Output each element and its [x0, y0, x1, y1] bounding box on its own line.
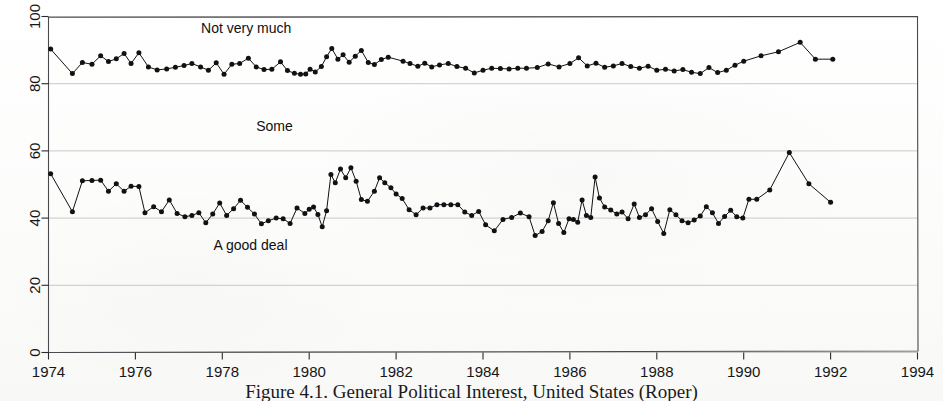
data-point: [266, 218, 271, 223]
data-point: [518, 211, 523, 216]
data-point: [437, 62, 442, 67]
x-tick-label: 1978: [206, 363, 239, 380]
political-interest-line-chart: 1974197619781980198219841986198819901992…: [0, 0, 943, 401]
data-point: [661, 231, 666, 236]
data-point: [524, 66, 529, 71]
data-point: [167, 197, 172, 202]
data-point: [483, 222, 488, 227]
data-point: [246, 56, 251, 61]
data-point: [507, 66, 512, 71]
data-point: [274, 216, 279, 221]
data-point: [151, 204, 156, 209]
data-point: [689, 70, 694, 75]
data-point: [535, 65, 540, 70]
data-point: [206, 68, 211, 73]
data-point: [734, 214, 739, 219]
data-point: [377, 175, 382, 180]
data-point: [716, 221, 721, 226]
data-point: [122, 51, 127, 56]
data-point: [217, 200, 222, 205]
data-point: [155, 67, 160, 72]
data-point: [540, 229, 545, 234]
data-point: [680, 218, 685, 223]
data-point: [441, 202, 446, 207]
data-point: [740, 216, 745, 221]
data-point: [588, 215, 593, 220]
data-point: [546, 218, 551, 223]
data-point: [407, 207, 412, 212]
data-point: [198, 64, 203, 69]
data-point: [98, 53, 103, 58]
data-point: [759, 53, 764, 58]
data-point: [602, 65, 607, 70]
data-point: [593, 61, 598, 66]
data-point: [408, 61, 413, 66]
data-point: [335, 57, 340, 62]
data-point: [324, 208, 329, 213]
data-point: [386, 55, 391, 60]
data-point: [173, 65, 178, 70]
data-point: [575, 220, 580, 225]
data-point: [637, 66, 642, 71]
x-tick-label: 1986: [553, 363, 586, 380]
x-tick-label: 1994: [901, 363, 934, 380]
data-point: [231, 206, 236, 211]
data-point: [455, 202, 460, 207]
data-point: [106, 189, 111, 194]
data-point: [655, 219, 660, 224]
data-series: [48, 40, 835, 238]
data-point: [646, 64, 651, 69]
data-point: [182, 63, 187, 68]
data-point: [292, 71, 297, 76]
data-point: [746, 197, 751, 202]
data-point: [673, 212, 678, 217]
data-point: [333, 180, 338, 185]
y-tick-label: 20: [26, 277, 43, 294]
data-point: [448, 202, 453, 207]
data-point: [434, 202, 439, 207]
data-point: [379, 57, 384, 62]
data-point: [667, 207, 672, 212]
data-point: [643, 212, 648, 217]
data-point: [254, 64, 259, 69]
data-point: [259, 221, 264, 226]
data-point: [295, 206, 300, 211]
data-point: [328, 172, 333, 177]
figure-caption: Figure 4.1. General Political Interest, …: [0, 379, 943, 401]
x-tick-label: 1990: [727, 363, 760, 380]
y-axis-ticks: [42, 17, 49, 353]
data-point: [136, 184, 141, 189]
data-point: [382, 180, 387, 185]
series-line: [51, 153, 831, 236]
data-point: [303, 71, 308, 76]
data-point: [196, 210, 201, 215]
data-point: [359, 48, 364, 53]
data-point: [798, 40, 803, 45]
data-point: [114, 181, 119, 186]
data-point: [343, 175, 348, 180]
data-point: [98, 178, 103, 183]
data-point: [189, 213, 194, 218]
data-point: [372, 62, 377, 67]
data-point: [806, 181, 811, 186]
y-tick-label: 100: [26, 4, 43, 29]
data-point: [338, 167, 343, 172]
data-point: [462, 210, 467, 215]
data-point: [366, 60, 371, 65]
x-tick-label: 1976: [119, 363, 152, 380]
data-point: [446, 61, 451, 66]
data-point: [515, 66, 520, 71]
data-point: [498, 66, 503, 71]
data-point: [70, 71, 75, 76]
data-point: [129, 184, 134, 189]
x-tick-label: 1980: [293, 363, 326, 380]
data-point: [365, 199, 370, 204]
data-point: [614, 212, 619, 217]
data-point: [106, 59, 111, 64]
data-point: [175, 211, 180, 216]
data-point: [580, 197, 585, 202]
data-point: [787, 150, 792, 155]
data-point: [830, 57, 835, 62]
data-point: [492, 228, 497, 233]
data-point: [704, 204, 709, 209]
